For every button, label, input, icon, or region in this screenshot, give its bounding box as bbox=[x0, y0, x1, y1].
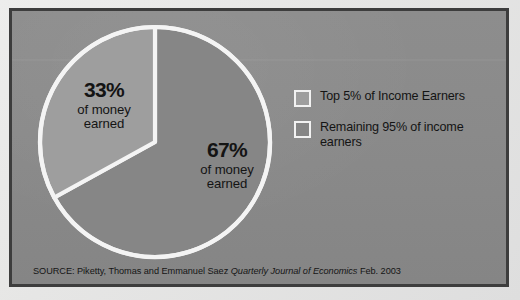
source-suffix: Feb. 2003 bbox=[357, 266, 400, 276]
slice-sublabel-33-line2: earned bbox=[49, 117, 159, 131]
legend-label-top5: Top 5% of Income Earners bbox=[320, 89, 465, 104]
legend-swatch-top5 bbox=[294, 90, 311, 107]
slice-sublabel-67-line2: earned bbox=[172, 177, 282, 191]
source-publication: Quarterly Journal of Economics bbox=[231, 266, 358, 276]
slice-percent-33: 33% bbox=[49, 79, 159, 102]
slice-sublabel-33-line1: of money bbox=[49, 103, 159, 117]
legend-item-top5[interactable]: Top 5% of Income Earners bbox=[294, 89, 504, 107]
legend-swatch-remaining95 bbox=[294, 121, 311, 138]
figure-canvas: 33% of money earned 67% of money earned … bbox=[0, 0, 520, 300]
slice-label-67: 67% of money earned bbox=[172, 139, 282, 191]
slice-percent-67: 67% bbox=[172, 139, 282, 162]
chart-frame: 33% of money earned 67% of money earned … bbox=[9, 8, 509, 287]
legend-item-remaining95[interactable]: Remaining 95% of income earners bbox=[294, 120, 504, 150]
slice-label-33: 33% of money earned bbox=[49, 79, 159, 131]
slice-sublabel-67-line1: of money bbox=[172, 163, 282, 177]
source-prefix: SOURCE: Piketty, Thomas and Emmanuel Sae… bbox=[33, 266, 231, 276]
source-note: SOURCE: Piketty, Thomas and Emmanuel Sae… bbox=[33, 266, 401, 276]
legend-label-remaining95: Remaining 95% of income earners bbox=[320, 120, 504, 150]
chart-legend: Top 5% of Income Earners Remaining 95% o… bbox=[294, 89, 504, 163]
